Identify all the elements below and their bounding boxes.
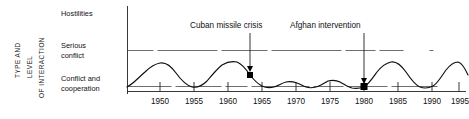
annotation-afghan-intervention: Afghan intervention — [290, 21, 368, 90]
x-tick-label-1980: 1980 — [355, 97, 374, 106]
annotation-marker-cuban-missile-crisis — [247, 72, 253, 78]
x-tick-label-1995: 1995 — [451, 97, 469, 106]
x-tick-label-1970: 1970 — [287, 97, 306, 106]
y-category-label-hostilities: Hostilities — [61, 9, 93, 18]
chart-figure: TYPE AND LEVEL OF INTERACTION Hostilitie… — [0, 0, 469, 119]
y-category-label-serious-conflict-line-2: conflict — [61, 51, 84, 60]
x-tick-label-1975: 1975 — [321, 97, 340, 106]
interaction-level-line-chart: TYPE AND LEVEL OF INTERACTION Hostilitie… — [0, 0, 469, 119]
y-axis-title-line-3: OF INTERACTION — [38, 37, 45, 98]
annotation-cuban-missile-crisis: Cuban missile crisis — [190, 21, 262, 78]
y-category-label-conflict-cooperation-line-2: cooperation — [61, 84, 100, 93]
x-tick-label-1990: 1990 — [423, 97, 442, 106]
x-tick-label-1965: 1965 — [253, 97, 272, 106]
y-axis-title: TYPE AND LEVEL OF INTERACTION — [14, 37, 45, 98]
plot-area: Cuban missile crisis Afghan intervention… — [127, 6, 469, 106]
x-tick-label-1950: 1950 — [151, 97, 170, 106]
y-axis-title-line-1: TYPE AND — [14, 42, 21, 78]
x-axis-tick-labels: 1950 1955 1960 1965 1970 1975 1980 1985 … — [151, 97, 469, 106]
y-category-label-conflict-cooperation-line-1: Conflict and — [61, 74, 100, 83]
interaction-level-curve — [127, 62, 468, 89]
y-category-label-serious-conflict-line-1: Serious — [61, 41, 86, 50]
y-axis-title-line-2: LEVEL — [26, 56, 33, 78]
x-tick-label-1985: 1985 — [389, 97, 408, 106]
annotation-label-afghan-intervention: Afghan intervention — [290, 21, 361, 30]
y-category-labels: Hostilities Serious conflict Conflict an… — [61, 9, 100, 93]
annotation-label-cuban-missile-crisis: Cuban missile crisis — [190, 21, 262, 30]
annotation-marker-afghan-intervention — [361, 83, 368, 90]
x-tick-label-1955: 1955 — [185, 97, 204, 106]
x-tick-label-1960: 1960 — [219, 97, 238, 106]
